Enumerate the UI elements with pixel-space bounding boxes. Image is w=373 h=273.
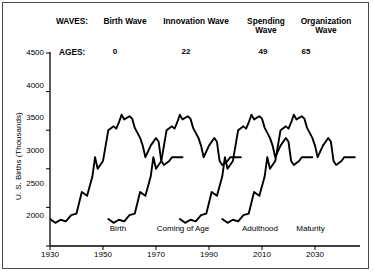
wave-curve-birth-wave bbox=[50, 115, 183, 223]
data-curves-group bbox=[50, 115, 355, 223]
birth-waves-chart: WAVES: Birth Wave Innovation Wave Spendi… bbox=[0, 0, 373, 273]
plot-area bbox=[0, 0, 373, 273]
wave-curve-innovation-wave bbox=[108, 115, 241, 223]
wave-curve-organization-wave bbox=[222, 115, 355, 223]
wave-curve-spending-wave bbox=[180, 115, 313, 223]
